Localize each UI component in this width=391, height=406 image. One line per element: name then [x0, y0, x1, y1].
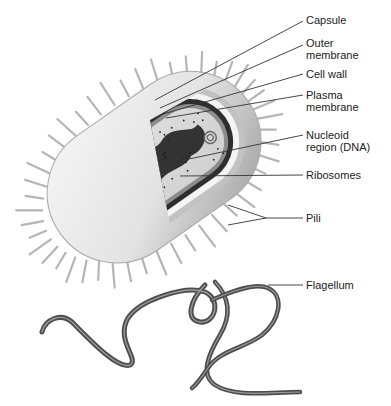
label-plasma-membrane: Plasma membrane: [306, 89, 359, 113]
pilus: [76, 112, 88, 125]
label-nucleoid: Nucleoid region (DNA): [306, 129, 370, 153]
pilus: [98, 262, 99, 280]
pilus: [112, 262, 114, 288]
pilus: [156, 251, 166, 275]
pilus: [87, 97, 100, 114]
capsule-layer: [20, 44, 289, 291]
pilus: [121, 80, 129, 96]
pilus: [243, 80, 255, 93]
pilus: [212, 215, 227, 231]
pilus: [135, 69, 143, 89]
pilus: [25, 180, 46, 187]
pilus: [185, 235, 195, 250]
label-outer-membrane: Outer membrane: [306, 37, 359, 61]
pilus: [56, 253, 65, 268]
pilus: [199, 226, 215, 247]
leader-pili: [228, 205, 266, 225]
pilus: [22, 221, 44, 225]
pilus: [254, 101, 274, 109]
pilus: [234, 65, 247, 87]
flagella: [42, 282, 300, 393]
pilus: [66, 257, 75, 281]
pilus: [30, 239, 51, 254]
pilus: [30, 231, 47, 238]
pilus: [42, 247, 57, 263]
label-pili: Pili: [306, 212, 321, 224]
flagellum-2: [207, 282, 300, 393]
pilus: [82, 261, 86, 283]
pilus: [25, 196, 43, 199]
flagellum-1: [42, 285, 215, 366]
label-cell-wall: Cell wall: [306, 68, 347, 80]
pilus: [27, 163, 51, 174]
label-capsule: Capsule: [306, 14, 346, 26]
pilus: [57, 119, 76, 137]
bacterium-diagram: Capsule Outer membrane Cell wall Plasma …: [0, 0, 391, 406]
pilus: [249, 90, 264, 100]
pilus: [49, 135, 67, 148]
label-flagellum: Flagellum: [306, 279, 354, 291]
label-ribosomes: Ribosomes: [306, 169, 361, 181]
pilus: [257, 114, 283, 119]
pilus: [171, 244, 181, 263]
pilus: [101, 83, 115, 105]
